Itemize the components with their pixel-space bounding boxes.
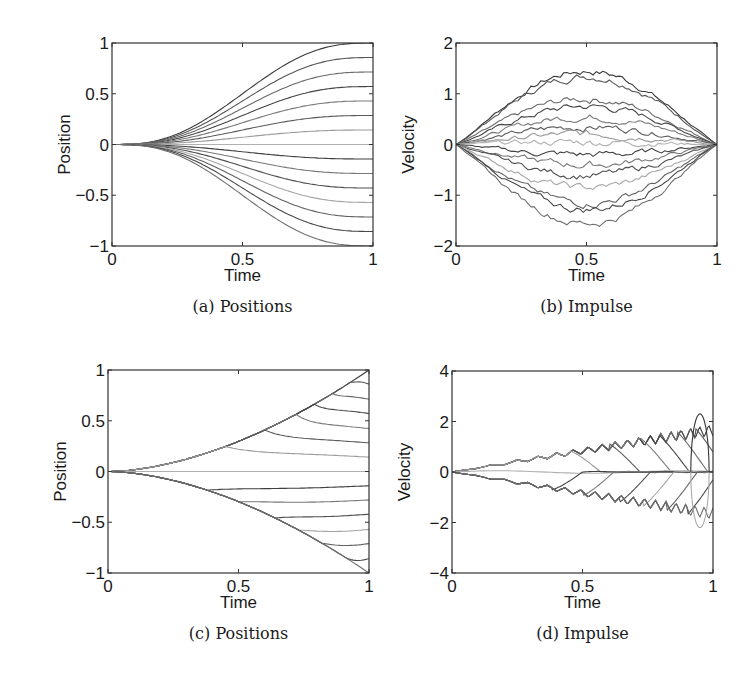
trajectory-line: [112, 58, 373, 145]
velocity-line: [456, 98, 717, 145]
y-tick-label: 1: [100, 34, 109, 53]
trajectory-line: [108, 394, 369, 472]
x-tick-label: 1: [368, 250, 377, 269]
velocity-line: [452, 471, 713, 506]
y-tick-label: 1: [444, 85, 453, 104]
trajectory-line: [108, 414, 369, 471]
velocity-line: [452, 451, 713, 473]
y-tick-label: 0: [444, 136, 453, 155]
trajectory-line: [112, 72, 373, 145]
velocity-line: [452, 471, 713, 489]
subplot-c-positions: 00.51−1−0.500.51TimePosition(c) Position…: [51, 361, 374, 643]
velocity-line: [452, 471, 713, 502]
y-tick-label: 1: [96, 361, 105, 380]
velocity-line: [456, 145, 717, 227]
velocity-line: [456, 75, 717, 145]
figure: 00.51−1−0.500.51TimePosition(a) Position…: [0, 0, 751, 696]
subplot-caption: (c) Positions: [189, 624, 288, 643]
trajectory-line: [112, 145, 373, 203]
trajectory-line: [112, 145, 373, 232]
trajectory-line: [112, 43, 373, 145]
y-tick-label: 2: [440, 413, 449, 432]
y-tick-label: 0: [440, 463, 449, 482]
trajectory-line: [108, 472, 369, 519]
y-tick-label: −1: [86, 564, 105, 583]
velocity-line: [452, 429, 713, 472]
y-tick-label: −1: [90, 237, 109, 256]
velocity-line: [452, 435, 713, 472]
y-axis-label: Velocity: [399, 115, 418, 174]
velocity-line: [456, 139, 717, 146]
x-axis-label: Time: [220, 593, 257, 612]
y-tick-label: −2: [430, 514, 449, 533]
y-tick-label: −2: [434, 237, 453, 256]
trajectory-line: [112, 145, 373, 218]
trajectory-line: [108, 472, 369, 574]
x-tick-label: 1: [364, 577, 373, 596]
x-tick-label: 1: [708, 577, 717, 596]
y-axis-label: Position: [51, 441, 70, 501]
y-tick-label: −0.5: [71, 513, 105, 532]
velocity-line: [452, 438, 713, 472]
y-tick-label: −4: [430, 564, 449, 583]
x-tick-label: 1: [712, 250, 721, 269]
subplot-caption: (d) Impulse: [536, 624, 629, 643]
trajectory-line: [112, 145, 373, 247]
y-tick-label: −0.5: [75, 186, 109, 205]
trajectory-line: [112, 101, 373, 145]
y-tick-label: 2: [444, 34, 453, 53]
trajectory-line: [108, 430, 369, 472]
y-tick-label: 0: [96, 463, 105, 482]
x-axis-label: Time: [568, 266, 605, 285]
trajectory-line: [108, 404, 369, 471]
y-tick-label: 0: [100, 136, 109, 155]
x-axis-label: Time: [224, 266, 261, 285]
y-tick-label: 4: [440, 362, 449, 381]
subplot-caption: (b) Impulse: [540, 297, 633, 316]
y-axis-label: Position: [55, 114, 74, 174]
trajectory-line: [112, 87, 373, 145]
trajectory-line: [108, 472, 369, 546]
y-tick-label: −1: [434, 186, 453, 205]
subplot-caption: (a) Positions: [193, 297, 293, 316]
y-tick-label: 0.5: [81, 412, 105, 431]
trajectory-line: [108, 370, 369, 472]
trajectory-line: [108, 446, 369, 471]
velocity-line: [452, 472, 713, 518]
y-axis-label: Velocity: [395, 442, 414, 501]
trajectory-line: [108, 472, 369, 491]
subplot-d-impulse: 00.51−4−2024TimeVelocity(d) Impulse: [395, 362, 718, 643]
subplot-a-positions: 00.51−1−0.500.51TimePosition(a) Position…: [55, 34, 378, 316]
trajectory-line: [112, 145, 373, 189]
y-tick-label: 0.5: [85, 85, 109, 104]
x-axis-label: Time: [564, 593, 601, 612]
subplot-b-impulse: 00.51−2−1012TimeVelocity(b) Impulse: [399, 34, 722, 316]
